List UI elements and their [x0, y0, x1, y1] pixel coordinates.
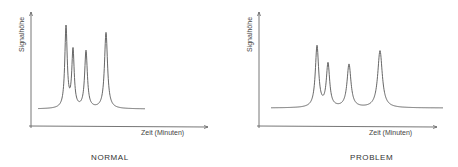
- chromatogram-figure: [0, 0, 458, 167]
- right-y-axis-label: Signalhöhe: [246, 17, 253, 52]
- left-y-axis-label: Signalhöhe: [18, 17, 25, 52]
- right-x-axis: [257, 126, 437, 127]
- right-x-axis-label: Zeit (Minuten): [369, 129, 412, 136]
- left-chart-title: NORMAL: [91, 153, 129, 162]
- right-chart-title: PROBLEM: [350, 153, 393, 162]
- left-x-axis-label: Zeit (Minuten): [141, 129, 184, 136]
- right-signal-trace: [271, 45, 443, 108]
- left-x-axis: [29, 126, 208, 127]
- left-signal-trace: [38, 25, 145, 109]
